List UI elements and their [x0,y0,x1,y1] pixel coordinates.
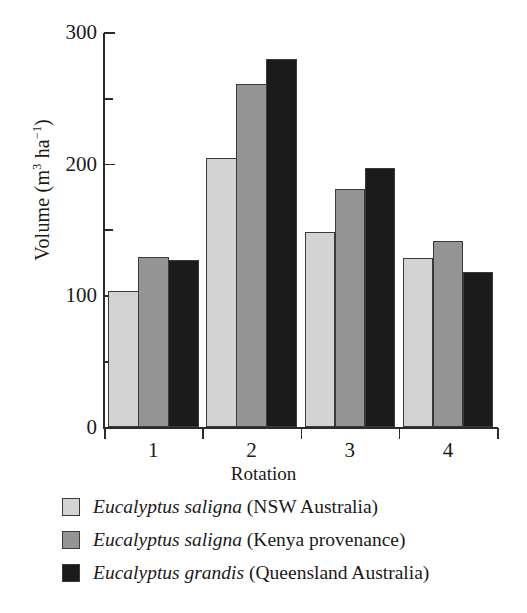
legend: Eucalyptus saligna (NSW Australia) Eucal… [62,490,527,589]
bar-rotation-3-series-1 [305,232,336,428]
x-tick-boundary-4 [497,428,499,439]
bar-rotation-3-series-3 [365,168,396,427]
legend-label-species-2: Eucalyptus saligna [93,529,242,550]
bar-rotation-1-series-1 [108,291,139,428]
y-tick-300 [104,32,115,34]
legend-swatch-series-3 [62,564,80,582]
y-tick-label-0: 0 [37,417,97,438]
legend-label-series-3: Eucalyptus grandis (Queensland Australia… [93,562,429,584]
x-tick-boundary-3 [399,428,401,439]
x-tick-boundary-1 [202,428,204,439]
legend-label-provenance-2: (Kenya provenance) [242,529,406,550]
y-axis-label-prefix: Volume (m [31,170,53,261]
y-axis-label-suffix: ) [31,119,53,126]
legend-label-series-1: Eucalyptus saligna (NSW Australia) [93,496,378,518]
y-tick-label-300: 300 [37,22,97,43]
x-tick-label-rotation-1: 1 [133,440,173,461]
y-tick-label-100: 100 [37,285,97,306]
x-tick-boundary-0 [104,428,106,439]
bar-rotation-1-series-2 [138,257,169,428]
bar-rotation-4-series-2 [433,241,464,428]
bar-rotation-4-series-3 [463,272,494,427]
legend-label-provenance-1: (NSW Australia) [242,496,378,517]
bar-rotation-2-series-1 [206,158,237,428]
x-tick-label-rotation-3: 3 [330,440,370,461]
legend-item: Eucalyptus saligna (NSW Australia) [62,490,527,523]
legend-item: Eucalyptus grandis (Queensland Australia… [62,556,527,589]
x-axis-label: Rotation [0,463,527,485]
y-axis-label: Volume (m3 ha−1) [30,80,54,300]
x-tick-label-rotation-4: 4 [428,440,468,461]
y-tick-label-200: 200 [37,154,97,175]
bar-rotation-3-series-2 [335,189,366,427]
bar-rotation-2-series-3 [266,59,297,427]
legend-label-species-3: Eucalyptus grandis [93,562,244,583]
legend-label-series-2: Eucalyptus saligna (Kenya provenance) [93,529,405,551]
legend-label-species-1: Eucalyptus saligna [93,496,242,517]
bar-rotation-1-series-3 [168,260,199,427]
y-minor-tick-150 [104,229,113,231]
legend-swatch-series-1 [62,498,80,516]
y-axis-label-sup-inverse: −1 [30,126,44,139]
legend-item: Eucalyptus saligna (Kenya provenance) [62,523,527,556]
legend-label-provenance-3: (Queensland Australia) [244,562,429,583]
bar-rotation-2-series-2 [236,84,267,427]
legend-swatch-series-2 [62,531,80,549]
x-tick-label-rotation-2: 2 [231,440,271,461]
bar-rotation-4-series-1 [403,258,434,428]
y-minor-tick-250 [104,98,113,100]
bar-chart-figure: Volume (m3 ha−1) 0100200300 1234 Rotatio… [0,0,527,613]
x-tick-boundary-2 [301,428,303,439]
y-tick-200 [104,164,115,166]
